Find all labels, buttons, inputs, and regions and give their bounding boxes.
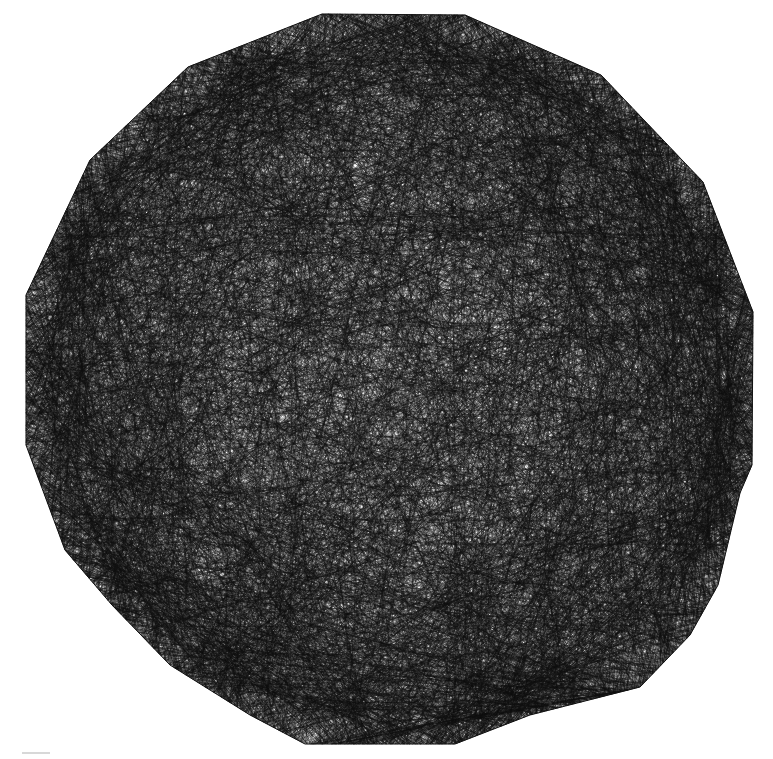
chord-web-figure (0, 0, 773, 759)
cropped-caption-fragment (22, 752, 50, 754)
